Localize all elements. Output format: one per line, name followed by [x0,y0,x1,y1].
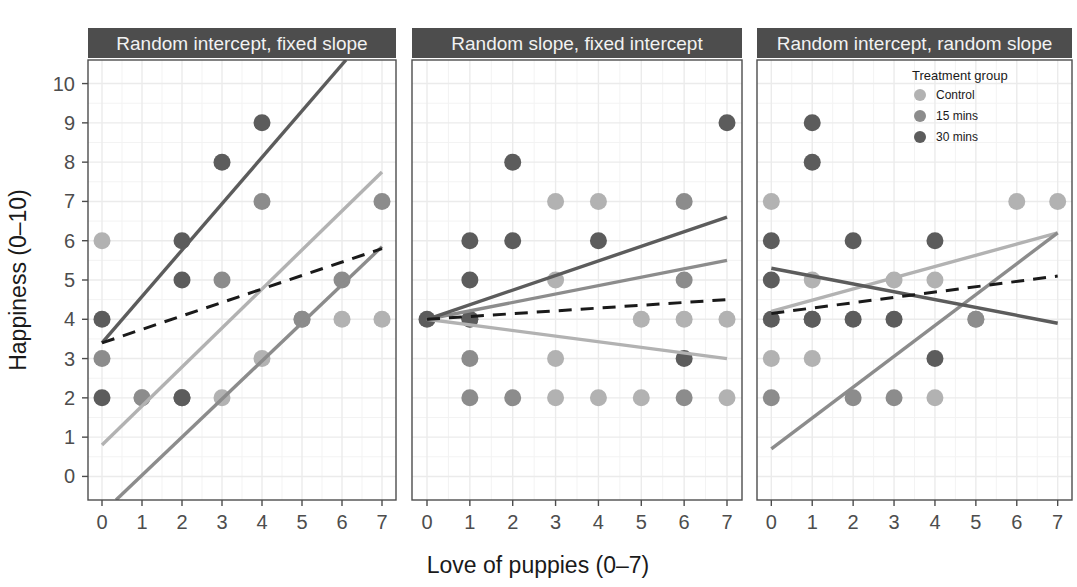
legend-item-label: 30 mins [936,130,978,144]
x-axis-tick-label: 0 [421,511,432,533]
data-point [174,389,191,406]
data-point [763,350,780,367]
data-point [94,311,111,328]
data-point [461,272,478,289]
chart-figure: Random intercept, fixed slope01234567Ran… [0,0,1077,587]
x-axis-tick-label: 7 [376,511,387,533]
data-point [547,193,564,210]
x-axis-tick-label: 7 [721,511,732,533]
data-point [94,232,111,249]
data-point [676,193,693,210]
x-axis-tick-label: 2 [848,511,859,533]
data-point [719,114,736,131]
facet-strip-label: Random intercept, random slope [777,33,1053,54]
y-axis-tick-label: 10 [53,73,75,95]
data-point [334,311,351,328]
y-axis-tick-label: 1 [64,426,75,448]
y-axis-tick-label: 5 [64,269,75,291]
facet-strip-label: Random slope, fixed intercept [451,33,703,54]
legend-item[interactable]: Control [914,88,975,102]
data-point [374,311,391,328]
panel-3: Random intercept, random slope01234567 [757,28,1072,533]
data-point [763,232,780,249]
panel-2: Random slope, fixed intercept01234567 [412,28,742,533]
data-point [804,154,821,171]
legend-swatch [914,131,926,143]
x-axis-tick-label: 4 [256,511,267,533]
data-point [926,389,943,406]
x-axis-tick-label: 1 [464,511,475,533]
facet-strip-label: Random intercept, fixed slope [116,33,367,54]
data-point [676,389,693,406]
x-axis-tick-label: 4 [593,511,604,533]
data-point [547,350,564,367]
y-axis-title: Happiness (0–10) [5,189,31,371]
y-axis-tick-label: 4 [64,308,75,330]
y-axis: 012345678910 [53,73,88,488]
x-axis-tick-label: 2 [176,511,187,533]
data-point [926,272,943,289]
legend-swatch [914,110,926,122]
data-point [590,389,607,406]
y-axis-tick-label: 0 [64,465,75,487]
x-axis-tick-label: 3 [550,511,561,533]
legend-title: Treatment group [912,68,1008,83]
data-point [504,389,521,406]
x-axis-tick-label: 5 [970,511,981,533]
data-point [763,272,780,289]
data-point [804,311,821,328]
x-axis-tick-label: 4 [929,511,940,533]
data-point [763,389,780,406]
data-point [214,272,231,289]
data-point [461,389,478,406]
data-point [94,389,111,406]
legend-item-label: Control [936,88,975,102]
x-axis-tick-label: 6 [679,511,690,533]
data-point [254,193,271,210]
data-point [633,389,650,406]
data-point [926,232,943,249]
x-axis-tick-label: 1 [136,511,147,533]
x-axis-tick-label: 6 [336,511,347,533]
data-point [504,154,521,171]
y-axis-tick-label: 8 [64,151,75,173]
data-point [590,232,607,249]
x-axis-tick-label: 3 [216,511,227,533]
x-axis-tick-label: 5 [296,511,307,533]
data-point [633,311,650,328]
x-axis-tick-label: 1 [807,511,818,533]
data-point [254,114,271,131]
data-point [967,311,984,328]
x-axis-tick-label: 0 [96,511,107,533]
faceted-scatter-plot: Random intercept, fixed slope01234567Ran… [0,0,1077,587]
data-point [174,272,191,289]
data-point [676,311,693,328]
data-point [1008,193,1025,210]
data-point [504,232,521,249]
data-point [719,311,736,328]
x-axis-tick-label: 5 [636,511,647,533]
y-axis-tick-label: 9 [64,112,75,134]
data-point [676,272,693,289]
data-point [804,350,821,367]
x-axis-title: Love of puppies (0–7) [427,552,650,578]
data-point [926,350,943,367]
x-axis-tick-label: 0 [766,511,777,533]
data-point [461,350,478,367]
legend-item-label: 15 mins [936,109,978,123]
data-point [719,389,736,406]
data-point [461,232,478,249]
data-point [374,193,391,210]
x-axis-tick-label: 6 [1011,511,1022,533]
data-point [547,389,564,406]
data-point [886,389,903,406]
legend-swatch [914,89,926,101]
data-point [763,193,780,210]
y-axis-tick-label: 7 [64,190,75,212]
data-point [214,154,231,171]
data-point [845,232,862,249]
data-point [886,311,903,328]
data-point [804,114,821,131]
data-point [590,193,607,210]
y-axis-tick-label: 3 [64,348,75,370]
